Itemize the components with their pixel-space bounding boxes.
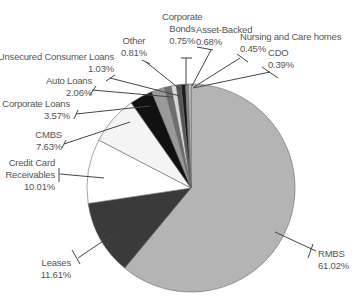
label-text: Unsecured Consumer Loans <box>0 51 114 63</box>
label-corporate-loans: Corporate Loans 3.57% <box>2 98 70 122</box>
label-cmbs: CMBS 7.63% <box>35 129 62 153</box>
label-leases: Leases 11.61% <box>41 257 71 281</box>
label-text: Corporate Loans <box>2 98 70 110</box>
label-text: Credit Card <box>5 157 55 169</box>
label-value: 61.02% <box>318 260 349 272</box>
label-value: 11.61% <box>41 269 71 281</box>
label-value: 7.63% <box>35 141 62 153</box>
label-text: CMBS <box>35 129 62 141</box>
label-value: 10.01% <box>5 181 55 193</box>
label-text: CDO <box>268 47 294 59</box>
label-value: 1.03% <box>0 63 114 75</box>
pie-slices <box>87 84 295 292</box>
label-value: 3.57% <box>2 110 70 122</box>
label-text: Other <box>121 35 147 47</box>
label-credit-card-receivables: Credit Card Receivables 10.01% <box>5 157 55 193</box>
label-auto: Auto Loans 2.06% <box>46 75 92 99</box>
label-text: Corporate <box>162 11 202 23</box>
label-text: RMBS <box>318 248 349 260</box>
label-value: 0.81% <box>121 47 147 59</box>
label-text: Nursing and Care homes <box>240 31 341 43</box>
label-rmbs: RMBS 61.02% <box>318 248 349 272</box>
label-text: Auto Loans <box>46 75 92 87</box>
label-value: 0.39% <box>268 59 294 71</box>
label-unsecured: Unsecured Consumer Loans 1.03% <box>0 51 114 75</box>
label-text: Receivables <box>5 169 55 181</box>
label-text: Leases <box>41 257 71 269</box>
label-other: Other 0.81% <box>121 35 147 59</box>
label-cdo: CDO 0.39% <box>268 47 294 71</box>
